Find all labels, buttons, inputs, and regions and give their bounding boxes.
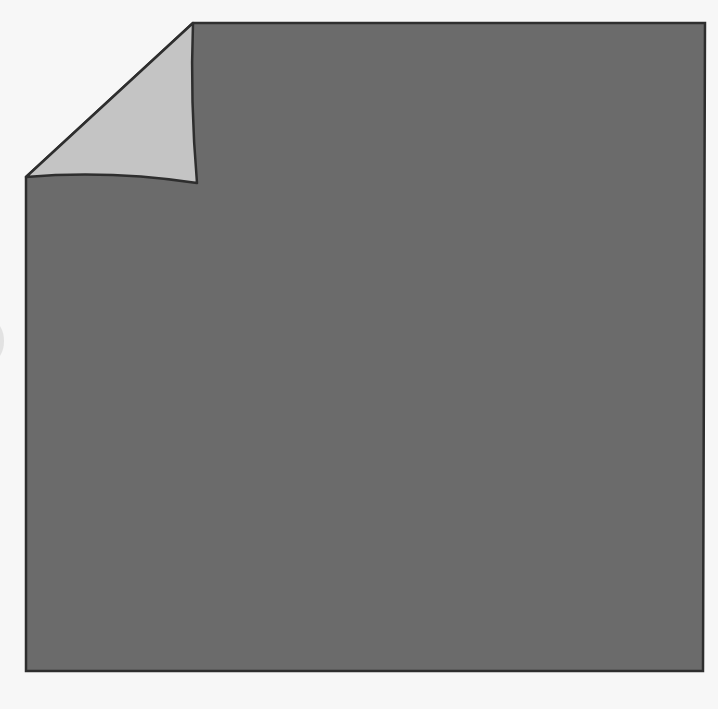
folded-sheet-figure — [0, 0, 718, 709]
folded-corner-flap — [26, 23, 197, 183]
